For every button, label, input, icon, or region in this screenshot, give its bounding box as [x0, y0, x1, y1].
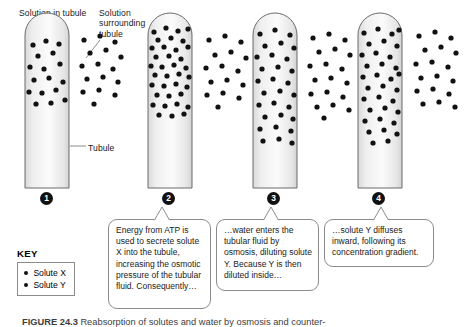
figure-caption: FIGURE 24.3 Reabsorption of solutes and … — [22, 317, 452, 327]
callout-step-4: …solute Y diffuses inward, following its… — [324, 219, 434, 267]
solute-dots-outside-1 — [79, 33, 123, 106]
figure-caption-number: FIGURE 24.3 — [22, 317, 78, 327]
callout-text-2: Energy from ATP is used to secrete solut… — [116, 225, 201, 291]
key-legend: KEY Solute X Solute Y — [17, 248, 75, 296]
panel-step-3 — [236, 0, 352, 212]
callout-tail-icon-3 — [261, 207, 281, 221]
key-item-solute-x: Solute X — [24, 267, 66, 279]
step-number-2: 2 — [162, 192, 175, 205]
tubule-illustration-4 — [341, 0, 464, 190]
figure-caption-text: Reabsorption of solutes and water by osm… — [80, 317, 325, 327]
key-item-label-solute-y: Solute Y — [33, 279, 65, 291]
callout-step-2: Energy from ATP is used to secrete solut… — [108, 219, 211, 309]
step-number-4: 4 — [372, 192, 385, 205]
callout-text-3: …water enters the tubular fluid by osmos… — [224, 225, 312, 280]
solute-dots-outside-4 — [413, 29, 458, 109]
key-box: Solute X Solute Y — [17, 262, 75, 296]
step-number-3: 3 — [267, 192, 280, 205]
step-number-1: 1 — [40, 192, 53, 205]
key-title: KEY — [17, 248, 75, 259]
solute-x-dot-icon — [24, 271, 28, 275]
tubule-body-3 — [253, 13, 297, 188]
key-item-label-solute-x: Solute X — [33, 267, 66, 279]
panel-step-1 — [8, 0, 124, 212]
solute-y-dot-icon — [24, 283, 28, 287]
callout-tail-icon-4 — [371, 207, 391, 221]
panel-step-2 — [131, 0, 247, 212]
key-item-solute-y: Solute Y — [24, 279, 66, 291]
callout-tail-icon-2 — [152, 207, 172, 221]
callout-step-3: …water enters the tubular fluid by osmos… — [216, 219, 319, 291]
figure-diagram: Solution in tubule Solution surrounding … — [0, 0, 464, 327]
callout-text-4: …solute Y diffuses inward, following its… — [332, 225, 418, 257]
panel-step-4 — [341, 0, 457, 212]
tubule-illustration-1 — [8, 0, 132, 190]
